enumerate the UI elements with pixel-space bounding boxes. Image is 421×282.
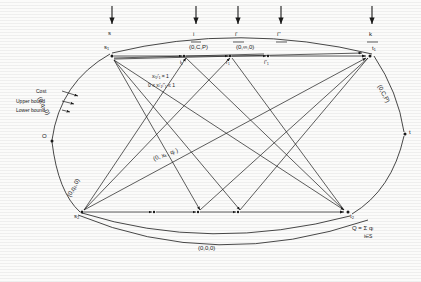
figure-canvas: s i i' i'' k s₁ s₂ t₁ t₂ O t i₁ i'₁ i''₁… bbox=[0, 0, 421, 282]
annotation-cost: Cost bbox=[36, 88, 46, 94]
annotation-upper-bound: Upper bound bbox=[16, 98, 45, 104]
sum-formula-subscript: i∈S bbox=[364, 233, 372, 239]
arc-i1p-t2 bbox=[232, 58, 344, 210]
arc-origin-to-s1 bbox=[52, 54, 110, 140]
node-label-s2: s₂ bbox=[74, 213, 79, 219]
node-dot-s1 bbox=[111, 55, 114, 58]
node-dot-i2p bbox=[197, 211, 199, 213]
node-dot-i2pp bbox=[237, 211, 239, 213]
node-label-s1: s₁ bbox=[104, 44, 109, 50]
constraint-inequality: 0 ≤ xᵢ'₁ᵢ''₁ ≤ 1 bbox=[148, 82, 175, 88]
node-dot-s2 bbox=[81, 211, 84, 214]
node-label-sink: t bbox=[409, 129, 411, 135]
arc-s2-cross-a bbox=[84, 58, 186, 210]
node-dot-i1p bbox=[229, 55, 231, 57]
diagram-vector-layer bbox=[0, 0, 421, 282]
constraint-equality: xᵢ₁ᵢ'₁ = 1 bbox=[152, 73, 169, 79]
sum-formula: Q = Σ qᵢ bbox=[352, 225, 373, 231]
leader-upper bbox=[62, 101, 74, 104]
top-arrow-group bbox=[112, 6, 372, 24]
node-label-i1pp: i''₁ bbox=[264, 59, 269, 65]
arc-bottom-outer bbox=[78, 215, 368, 245]
annotation-lower-bound: Lower bound bbox=[16, 107, 45, 113]
leader-line-group bbox=[62, 91, 78, 112]
arc-label-bottom: (0,0,0) bbox=[198, 245, 215, 251]
arc-t1-to-t bbox=[374, 56, 404, 132]
top-label-s: s bbox=[108, 30, 111, 36]
node-label-t2: t₂ bbox=[350, 213, 354, 219]
node-dot-sink bbox=[404, 133, 407, 136]
arc-label-top-left: (0,C,P) bbox=[189, 44, 208, 50]
arc-s2-cross-b bbox=[84, 58, 230, 210]
node-label-i1p: i'₁ bbox=[226, 59, 230, 65]
node-dot-origin bbox=[51, 140, 54, 143]
node-dot-i1 bbox=[183, 55, 185, 57]
leader-lower bbox=[62, 110, 70, 112]
node-dot-i1pp bbox=[267, 55, 269, 57]
node-label-t1: t₁ bbox=[372, 45, 376, 51]
top-label-i-prime: i' bbox=[235, 31, 237, 37]
leader-cost bbox=[62, 91, 78, 96]
arc-s1-cross-d bbox=[114, 60, 240, 210]
node-label-origin: O bbox=[42, 133, 47, 139]
arc-i1-t2 bbox=[186, 58, 344, 210]
top-label-k: k bbox=[369, 31, 372, 37]
arc-t2-to-t bbox=[352, 136, 404, 214]
top-label-i-double-prime: i'' bbox=[277, 31, 281, 37]
arc-label-top-right: (0,∞,0) bbox=[236, 44, 254, 50]
arc-i2pp-t1 bbox=[240, 58, 368, 210]
node-dot-t1 bbox=[369, 55, 372, 58]
node-dot-i2 bbox=[153, 211, 155, 213]
top-label-i: i bbox=[193, 31, 194, 37]
node-label-i1: i₁ bbox=[180, 59, 183, 65]
